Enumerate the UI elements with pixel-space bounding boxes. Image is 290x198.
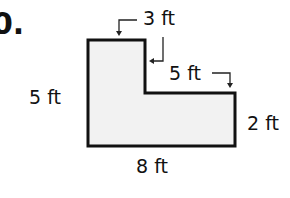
arrow-step-icon: [152, 37, 163, 61]
geometry-figure: 0. 3 ft 5 ft 5 ft 2 ft 8 ft: [0, 0, 290, 198]
label-bottom: 8 ft: [136, 157, 168, 176]
arrowhead-right-icon: [227, 83, 233, 88]
label-step: 5 ft: [169, 64, 201, 83]
arrowhead-step-icon: [149, 58, 154, 64]
label-top: 3 ft: [143, 9, 175, 28]
label-right: 2 ft: [247, 114, 279, 133]
l-shape: [88, 40, 235, 146]
label-left: 5 ft: [29, 88, 61, 107]
arrowhead-top-icon: [116, 31, 122, 36]
